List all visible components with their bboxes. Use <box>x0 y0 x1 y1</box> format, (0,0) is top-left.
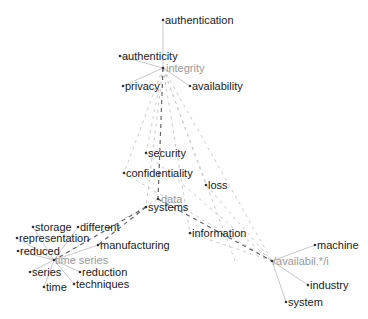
term-label: authenticity <box>122 50 178 62</box>
term-label: series <box>32 266 62 278</box>
term-label: reduced <box>20 245 60 257</box>
term-label: systems <box>148 201 189 213</box>
term-loss[interactable]: loss <box>205 179 228 191</box>
term-label: privacy <box>125 80 160 92</box>
term-label: representation <box>19 232 89 244</box>
term-industry[interactable]: industry <box>307 279 349 291</box>
term-label: loss <box>208 179 228 191</box>
term-label: time <box>46 281 67 293</box>
term-techniques[interactable]: techniques <box>73 278 130 290</box>
hub-label: time series <box>55 254 109 266</box>
hub-label: integrity <box>166 62 205 74</box>
hub-label: /availabil.*/i <box>273 255 329 267</box>
term-label: confidentiality <box>126 167 193 179</box>
hub-time-series[interactable]: time series <box>53 254 109 266</box>
term-reduction[interactable]: reduction <box>79 266 128 278</box>
term-confidentiality[interactable]: confidentiality <box>123 167 193 179</box>
term-label: availability <box>192 80 243 92</box>
term-label: techniques <box>76 278 130 290</box>
term-authentication[interactable]: authentication <box>162 14 234 26</box>
hub-availabil[interactable]: /availabil.*/i <box>271 255 329 267</box>
term-representation[interactable]: representation <box>16 232 90 244</box>
term-label: system <box>288 296 323 308</box>
term-privacy[interactable]: privacy <box>122 80 161 92</box>
term-systems[interactable]: systems <box>145 201 189 213</box>
availabil-edges <box>272 245 315 302</box>
term-information[interactable]: information <box>189 227 247 239</box>
hub-integrity[interactable]: integrity <box>162 62 205 74</box>
term-label: manufacturing <box>100 239 170 251</box>
term-time[interactable]: time <box>43 281 67 293</box>
term-manufacturing[interactable]: manufacturing <box>97 239 170 251</box>
term-reduced[interactable]: reduced <box>17 245 60 257</box>
term-label: industry <box>310 279 349 291</box>
term-authenticity[interactable]: authenticity <box>119 50 178 62</box>
term-availability[interactable]: availability <box>189 80 244 92</box>
term-security[interactable]: security <box>145 147 187 159</box>
term-label: security <box>148 147 186 159</box>
term-label: information <box>192 227 246 239</box>
term-label: reduction <box>82 266 127 278</box>
term-label: authentication <box>165 14 234 26</box>
term-label: machine <box>317 239 359 251</box>
term-network-diagram: integrity data time series /availabil.*/… <box>0 0 368 319</box>
term-machine[interactable]: machine <box>314 239 359 251</box>
term-series[interactable]: series <box>29 266 62 278</box>
term-system[interactable]: system <box>285 296 323 308</box>
